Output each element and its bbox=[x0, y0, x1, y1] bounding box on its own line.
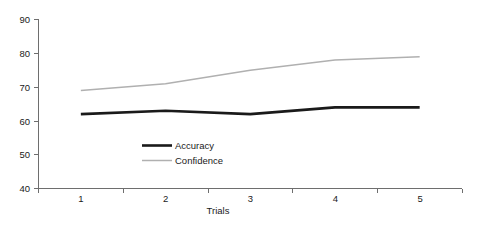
x-tick-label-1: 1 bbox=[78, 193, 83, 204]
chart-legend: Accuracy Confidence bbox=[142, 140, 223, 166]
line-chart: 90 80 70 60 50 40 1 2 3 4 5 Trials Accur… bbox=[0, 0, 481, 230]
y-tick-label-40: 40 bbox=[19, 183, 30, 194]
y-tick-label-90: 90 bbox=[19, 14, 30, 25]
y-tick-label-70: 70 bbox=[19, 82, 30, 93]
x-tick-label-2: 2 bbox=[163, 193, 168, 204]
x-tick-label-3: 3 bbox=[248, 193, 253, 204]
chart-canvas: 90 80 70 60 50 40 1 2 3 4 5 Trials Accur… bbox=[0, 0, 481, 230]
x-tick-label-4: 4 bbox=[333, 193, 338, 204]
x-axis-title: Trials bbox=[207, 205, 230, 216]
y-tick-label-50: 50 bbox=[19, 149, 30, 160]
legend-label-confidence: Confidence bbox=[175, 155, 223, 166]
legend-label-accuracy: Accuracy bbox=[175, 140, 214, 151]
y-tick-label-80: 80 bbox=[19, 48, 30, 59]
series-line-confidence bbox=[81, 57, 420, 91]
y-tick-label-60: 60 bbox=[19, 116, 30, 127]
series-line-accuracy bbox=[81, 107, 420, 114]
x-tick-label-5: 5 bbox=[417, 193, 422, 204]
